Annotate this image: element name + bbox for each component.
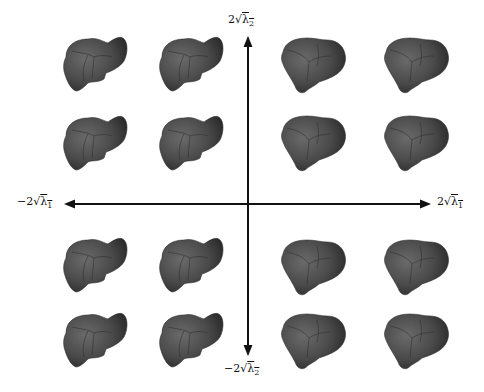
right-arrowhead-icon (420, 200, 431, 209)
subscript: 1 (47, 201, 52, 210)
lambda: λ (242, 13, 249, 26)
sqrt-icon: √ (235, 13, 242, 26)
liver-mesh-r2-c1 (64, 116, 127, 170)
liver-mesh-r1-c2 (160, 37, 223, 91)
liver-mesh-r2-c2 (160, 116, 223, 170)
label-prefix: 2 (228, 13, 235, 26)
axis-label-top: 2√λ2 (228, 13, 254, 28)
liver-mesh-r3-c2 (160, 238, 223, 292)
label-prefix: −2 (224, 362, 240, 375)
lambda: λ (451, 195, 458, 208)
vertical-axis (244, 36, 253, 356)
label-prefix: −2 (17, 195, 33, 208)
liver-mesh-r1-c1 (64, 37, 127, 91)
label-radicand: λ2 (242, 13, 254, 26)
liver-mesh-r4-c4 (385, 314, 449, 369)
left-arrowhead-icon (64, 200, 75, 209)
liver-mesh-r3-c4 (385, 240, 449, 295)
liver-mesh-r3-c1 (64, 238, 127, 292)
liver-mesh-r4-c1 (64, 313, 127, 367)
label-radicand: λ1 (451, 195, 463, 208)
axis-label-bottom: −2√λ2 (224, 362, 259, 377)
down-arrowhead-icon (244, 345, 253, 356)
liver-mesh-r4-c2 (160, 313, 223, 367)
subscript: 2 (249, 19, 254, 28)
liver-mesh-r2-c4 (385, 116, 449, 171)
label-prefix: 2 (437, 195, 444, 208)
subscript: 2 (254, 368, 259, 377)
liver-mesh-r2-c3 (282, 116, 346, 171)
liver-mesh-r3-c3 (282, 240, 346, 295)
axis-label-right: 2√λ1 (437, 195, 463, 210)
liver-mesh-r1-c3 (282, 38, 346, 93)
label-radicand: λ1 (40, 195, 52, 208)
subscript: 1 (458, 201, 463, 210)
axis-label-left: −2√λ1 (17, 195, 52, 210)
liver-mesh-r4-c3 (282, 314, 346, 369)
shape-space-diagram (0, 0, 484, 392)
sqrt-icon: √ (444, 195, 451, 208)
up-arrowhead-icon (244, 36, 253, 47)
liver-mesh-r1-c4 (385, 38, 449, 93)
label-radicand: λ2 (247, 362, 259, 375)
